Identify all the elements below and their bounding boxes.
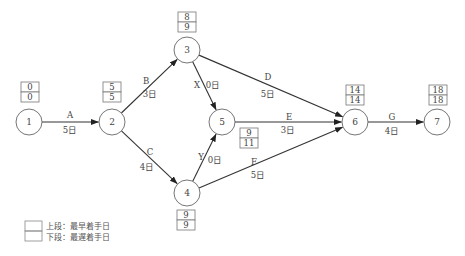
earliest-start: 14 <box>350 85 361 95</box>
earliest-start: 18 <box>433 85 444 95</box>
node-5: 5 <box>209 109 235 135</box>
activity-duration-x: 0日 <box>206 80 220 90</box>
node-4: 4 <box>174 180 200 206</box>
activity-duration-b: 3日 <box>143 89 157 99</box>
node-label: 3 <box>184 45 190 55</box>
start-box-node-7: 1818 <box>429 85 447 105</box>
start-box-node-4: 99 <box>177 210 195 230</box>
activity-duration-a: 5日 <box>63 125 77 135</box>
earliest-start: 9 <box>246 128 251 138</box>
activity-name-y: Y <box>197 152 204 162</box>
node-label: 2 <box>109 117 115 127</box>
activity-arrow-d <box>199 55 343 117</box>
latest-start: 9 <box>184 22 189 32</box>
start-box-node-1: 00 <box>21 82 39 102</box>
legend: 上段：最早着手日 下段：最遅着手日 <box>25 221 110 242</box>
activity-name-a: A <box>66 110 74 120</box>
activity-name-e: E <box>286 112 292 122</box>
latest-start: 0 <box>27 92 32 102</box>
activity-name-c: C <box>147 147 154 157</box>
activity-duration-g: 4日 <box>385 126 399 136</box>
latest-start: 18 <box>433 95 444 105</box>
node-6: 6 <box>342 109 368 135</box>
node-label: 4 <box>184 188 190 198</box>
activity-arrow-b <box>121 59 177 113</box>
legend-box-lower <box>25 231 42 241</box>
start-box-node-3: 89 <box>178 12 196 32</box>
latest-start: 14 <box>350 95 361 105</box>
activity-duration-e: 3日 <box>281 125 295 135</box>
node-1: 1 <box>16 109 42 135</box>
node-label: 1 <box>26 117 32 127</box>
activity-name-x: X <box>194 80 201 90</box>
activity-arrow-c <box>121 131 177 184</box>
activity-name-f: F <box>251 157 257 167</box>
start-box-node-6: 1414 <box>346 85 364 105</box>
activity-name-b: B <box>143 76 149 86</box>
legend-upper-text: 上段：最早着手日 <box>46 221 110 231</box>
activity-duration-y: 0日 <box>208 155 222 165</box>
node-label: 5 <box>219 117 225 127</box>
arrow-diagram: A5日B3日C4日X0日Y0日D5日E3日F5日G4日 1234567 0055… <box>0 0 465 256</box>
latest-start: 5 <box>109 92 114 102</box>
start-box-node-5: 911 <box>240 128 258 148</box>
earliest-start: 0 <box>27 82 32 92</box>
activity-duration-f: 5日 <box>251 170 265 180</box>
node-7: 7 <box>424 109 450 135</box>
activity-name-g: G <box>389 112 396 122</box>
node-2: 2 <box>99 109 125 135</box>
earliest-start: 5 <box>109 82 114 92</box>
legend-box-upper <box>25 221 42 231</box>
node-label: 7 <box>434 117 440 127</box>
earliest-start: 8 <box>184 12 189 22</box>
activity-duration-d: 5日 <box>261 89 275 99</box>
node-label: 6 <box>352 117 358 127</box>
latest-start: 11 <box>244 138 255 148</box>
earliest-start: 9 <box>183 210 188 220</box>
legend-lower-text: 下段：最遅着手日 <box>46 232 110 242</box>
latest-start: 9 <box>183 220 188 230</box>
activity-duration-c: 4日 <box>140 162 154 172</box>
activity-name-d: D <box>265 72 272 82</box>
start-box-node-2: 55 <box>103 82 121 102</box>
node-3: 3 <box>174 37 200 63</box>
